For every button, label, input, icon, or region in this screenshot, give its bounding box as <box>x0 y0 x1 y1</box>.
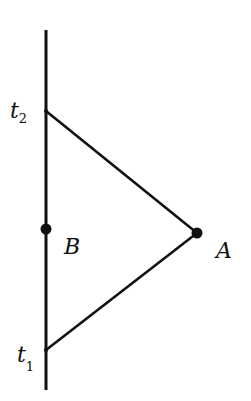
label-t1: t1 <box>17 342 34 374</box>
point-a <box>192 228 203 239</box>
point-t2 <box>44 109 48 113</box>
point-b <box>41 224 52 235</box>
label-b: B <box>63 234 80 259</box>
signal-line-upper <box>46 111 197 233</box>
label-a: A <box>214 238 232 263</box>
diagram: t2 B A t1 <box>0 0 251 401</box>
point-t1 <box>44 348 48 352</box>
label-t2: t2 <box>10 98 27 126</box>
